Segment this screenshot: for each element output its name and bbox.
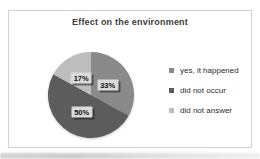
legend-swatch <box>169 108 174 113</box>
legend-item: did not occur <box>169 84 239 97</box>
legend-swatch <box>169 68 174 73</box>
legend-item: did not answer <box>169 104 239 117</box>
scan-artifact-band <box>0 153 260 159</box>
legend-label: yes, it happened <box>180 66 239 75</box>
legend: yes, it happened did not occur did not a… <box>169 64 239 117</box>
data-label: 17% <box>71 73 92 84</box>
legend-item: yes, it happened <box>169 64 239 77</box>
data-label: 33% <box>97 80 118 91</box>
legend-label: did not answer <box>180 106 232 115</box>
data-label: 50% <box>71 106 92 117</box>
screenshot-canvas: Effect on the environment 33%50%17% yes,… <box>0 0 260 159</box>
chart-frame: Effect on the environment 33%50%17% yes,… <box>8 10 252 148</box>
legend-swatch <box>169 88 174 93</box>
legend-label: did not occur <box>180 86 226 95</box>
